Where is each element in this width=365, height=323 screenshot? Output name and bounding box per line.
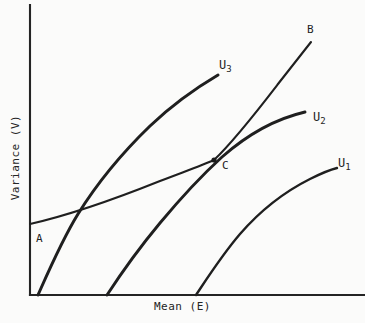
chart-figure: U3 U2 U1 B C A Mean (E) Variance (V)	[0, 0, 365, 323]
curve-label-u3: U3	[219, 58, 232, 74]
tangency-point-c-marker	[211, 157, 216, 162]
point-label-c: C	[222, 159, 229, 172]
point-label-b: B	[307, 23, 314, 36]
y-axis-label-wrapper: Variance (V)	[4, 98, 23, 218]
curve-label-u2: U2	[313, 110, 326, 126]
chart-plot-area	[0, 0, 365, 323]
opportunity-locus-ab	[30, 42, 311, 224]
point-label-a: A	[36, 232, 43, 245]
curve-u1	[196, 168, 337, 295]
y-axis-label: Variance (V)	[9, 115, 22, 200]
x-axis-label: Mean (E)	[0, 300, 365, 313]
curve-label-u1: U1	[338, 156, 351, 172]
